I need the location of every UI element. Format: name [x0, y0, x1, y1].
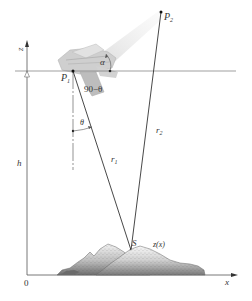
z-axis-arrow-icon — [25, 40, 29, 47]
p2-label: P2 — [163, 11, 173, 23]
alpha-label: α — [100, 57, 105, 67]
p1-label: P1 — [60, 72, 70, 84]
origin-label: 0 — [24, 278, 29, 288]
x-axis-label: x — [224, 277, 229, 287]
theta-label: θ — [80, 118, 84, 127]
r1-label: r1 — [111, 154, 118, 165]
point-p1 — [72, 70, 75, 73]
r2-label: r2 — [156, 125, 163, 136]
point-p2 — [160, 11, 163, 14]
z-axis-label: z — [15, 47, 25, 52]
s-label: S — [132, 238, 137, 248]
h-marker-icon — [25, 71, 30, 77]
alpha-vertex — [109, 70, 112, 73]
ninety-minus-theta-label: 90−θ — [84, 84, 102, 94]
ray-r1 — [73, 71, 131, 250]
x-axis-arrow-icon — [231, 273, 238, 277]
h-label: h — [17, 158, 22, 168]
geometry-diagram: z x 0 P1 P2 S z(x) α 90−θ θ r1 r2 h — [0, 0, 252, 301]
terrain-label: z(x) — [152, 240, 165, 249]
